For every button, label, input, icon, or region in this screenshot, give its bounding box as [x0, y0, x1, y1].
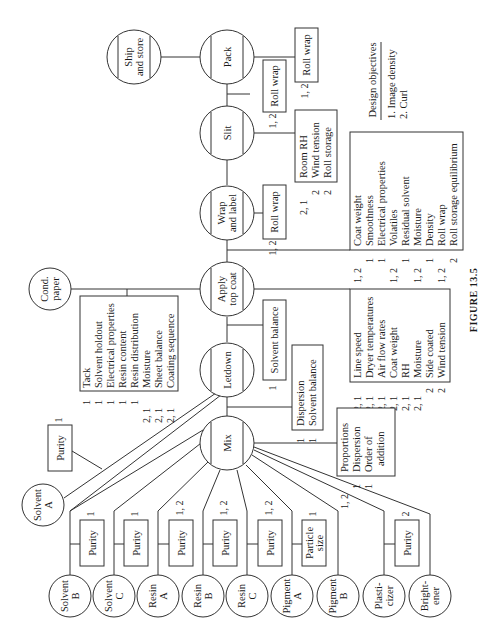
svg-text:addition: addition: [375, 431, 386, 466]
svg-text:Electrical properties: Electrical properties: [105, 303, 116, 388]
svg-text:Proportions: Proportions: [339, 423, 350, 472]
svg-text:1: 1: [129, 400, 140, 405]
svg-text:2, 1: 2, 1: [153, 408, 164, 423]
svg-text:1: 1: [424, 258, 435, 263]
svg-text:1, 2: 1, 2: [339, 494, 350, 509]
svg-text:1, 2: 1, 2: [412, 268, 423, 283]
svg-text:Moisture: Moisture: [141, 350, 152, 388]
node-resin-a: ResinA: [137, 575, 179, 617]
apply-codes: 1, 2 1 1 1, 2 1 1, 2 1 1, 2 2: [352, 258, 459, 283]
svg-text:1: 1: [295, 438, 306, 443]
svg-text:1, 2: 1, 2: [263, 501, 274, 516]
svg-text:Room RH: Room RH: [298, 135, 309, 178]
svg-text:Roll wrap: Roll wrap: [436, 204, 447, 246]
svg-text:1: 1: [351, 484, 362, 489]
svg-text:2. Curl: 2. Curl: [398, 90, 409, 119]
pack-roll-wrap-box: Roll wrap 1, 2: [295, 28, 318, 99]
process-parameters-box: Line speed Dryer temperatures Air flow r…: [350, 289, 450, 411]
node-slit: Slit: [200, 106, 254, 160]
apply-top-coat-box: Coat weight Smoothness Electrical proper…: [350, 132, 463, 283]
node-solvent-b: SolventB: [49, 575, 91, 617]
svg-text:1, 2: 1, 2: [267, 241, 278, 256]
figure-caption: FIGURE 13.5: [468, 268, 479, 332]
svg-text:1: 1: [53, 418, 64, 423]
svg-text:Solvent balance: Solvent balance: [307, 359, 318, 426]
svg-text:1, 2: 1, 2: [174, 501, 185, 516]
svg-text:1, 2: 1, 2: [299, 84, 310, 99]
svg-text:1: 1: [363, 484, 374, 489]
svg-text:1: 1: [376, 258, 387, 263]
slit-roll-wrap-box: Roll wrap 1, 2: [263, 60, 286, 129]
svg-text:Purity: Purity: [265, 529, 276, 555]
svg-text:1: 1: [307, 438, 318, 443]
svg-text:Coat weight: Coat weight: [352, 195, 363, 246]
svg-text:Resin content: Resin content: [117, 330, 128, 388]
svg-text:Mix: Mix: [222, 434, 233, 452]
svg-text:1: 1: [81, 400, 92, 405]
svg-text:1, 2: 1, 2: [218, 501, 229, 516]
svg-text:Plasti-cizer: Plasti-cizer: [373, 582, 395, 609]
plasticizer-purity-box: Purity 2: [395, 512, 419, 567]
svg-text:Roll wrap: Roll wrap: [269, 191, 280, 233]
svg-text:Moisture: Moisture: [412, 340, 423, 378]
svg-text:Tack: Tack: [81, 367, 92, 388]
wrap-roll-wrap-box: Roll wrap 1, 2: [263, 185, 286, 256]
svg-text:Coating sequence: Coating sequence: [165, 313, 176, 388]
svg-text:Wind tension: Wind tension: [436, 321, 447, 378]
node-wrap-and-label: Wrapand label: [200, 186, 254, 240]
node-brightener: Bright-ener: [409, 575, 451, 617]
svg-text:Roll storage equilibrium: Roll storage equilibrium: [448, 143, 459, 246]
svg-text:Smoothness: Smoothness: [364, 195, 375, 246]
svg-text:Applytop coat: Applytop coat: [216, 272, 238, 306]
letdown-dispersion-box: Dispersion Solvent balance 1 1: [292, 345, 323, 443]
svg-text:Purity: Purity: [176, 529, 187, 555]
svg-text:Pack: Pack: [222, 46, 233, 67]
node-ship-and-store: Shipand store: [107, 30, 161, 84]
svg-text:Solvent balance: Solvent balance: [269, 306, 280, 373]
svg-text:1: 1: [93, 400, 104, 405]
svg-text:Side coated: Side coated: [424, 329, 435, 378]
svg-text:Electrical properties: Electrical properties: [376, 161, 387, 246]
process-flow-diagram: Shipand store Pack Slit Wrapand label Ap…: [0, 0, 485, 642]
svg-text:Design objectives: Design objectives: [367, 43, 378, 118]
svg-text:2, 1: 2, 1: [298, 200, 309, 215]
svg-text:Solvent holdout: Solvent holdout: [93, 321, 104, 388]
node-mix: Mix: [200, 416, 254, 470]
svg-text:Purity: Purity: [220, 529, 231, 555]
svg-text:Dispersion: Dispersion: [295, 380, 306, 426]
svg-text:Wind tension: Wind tension: [310, 121, 321, 178]
svg-text:1: 1: [85, 512, 96, 517]
svg-text:Resin distribution: Resin distribution: [129, 312, 140, 388]
svg-text:Slit: Slit: [222, 126, 233, 141]
node-solvent-a: SolventA: [22, 484, 64, 526]
node-letdown: Letdown: [200, 343, 254, 397]
solvent-b-purity-box: Purity 1: [80, 512, 104, 567]
svg-text:1. Image density: 1. Image density: [386, 49, 397, 119]
svg-text:Dispersion: Dispersion: [351, 426, 362, 472]
svg-text:Roll wrap: Roll wrap: [269, 65, 280, 107]
resin-c-purity-box: Purity 1, 2: [258, 501, 282, 567]
cond-paper-box: Tack Solvent holdout Electrical properti…: [80, 296, 178, 423]
svg-text:Purity: Purity: [87, 529, 98, 555]
svg-text:2, 1: 2, 1: [141, 408, 152, 423]
svg-text:Residual solvent: Residual solvent: [400, 176, 411, 246]
svg-text:Density: Density: [424, 213, 435, 246]
svg-text:Purity: Purity: [55, 434, 66, 460]
svg-text:2, 1: 2, 1: [165, 408, 176, 423]
node-resin-b: ResinB: [182, 575, 224, 617]
svg-text:Moisture: Moisture: [412, 208, 423, 246]
svg-text:2: 2: [400, 512, 411, 517]
node-plasticizer: Plasti-cizer: [363, 575, 405, 617]
svg-text:1, 2: 1, 2: [352, 268, 363, 283]
svg-text:Volatiles: Volatiles: [388, 209, 399, 246]
svg-text:1: 1: [117, 400, 128, 405]
node-solvent-c: SolventC: [93, 575, 135, 617]
svg-text:Dryer temperatures: Dryer temperatures: [364, 297, 375, 378]
svg-text:1: 1: [307, 512, 318, 517]
node-pigment-a: PigmentA: [271, 575, 313, 617]
svg-text:1: 1: [105, 400, 116, 405]
svg-text:Coat weight: Coat weight: [388, 327, 399, 378]
design-objectives: Design objectives 1. Image density 2. Cu…: [367, 42, 409, 120]
svg-text:Roll wrap: Roll wrap: [301, 34, 312, 76]
slit-parameters-box: Room RH Wind tension Roll storage 2, 1 2…: [295, 110, 337, 215]
